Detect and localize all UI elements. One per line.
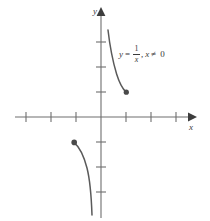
y-axis-label: y: [93, 7, 97, 16]
curve-lower-branch: [74, 143, 92, 215]
annotation-equals: =: [123, 50, 132, 59]
reciprocal-function-figure: y x y = 1 x , x ≠ 0: [0, 0, 210, 221]
x-axis-label: x: [189, 123, 193, 132]
endpoint-dot-lower: [71, 140, 77, 146]
equation-annotation: y = 1 x , x ≠ 0: [119, 45, 167, 64]
annotation-fraction: 1 x: [133, 45, 140, 64]
annotation-denominator: x: [134, 55, 140, 64]
annotation-zero: 0: [158, 50, 167, 59]
graph-canvas: [0, 0, 210, 221]
annotation-not-equal-sign: ≠: [149, 50, 158, 59]
y-axis-arrowhead: [97, 7, 106, 16]
x-axis-arrowhead: [188, 113, 197, 122]
endpoint-dot-upper: [124, 90, 129, 95]
annotation-numerator: 1: [134, 45, 140, 54]
